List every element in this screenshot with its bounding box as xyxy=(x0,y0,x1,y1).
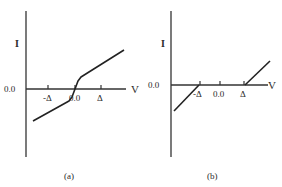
tick-label-neg-delta-a: -Δ xyxy=(43,93,52,103)
iv-curve-b-positive xyxy=(245,61,270,85)
tick-label-delta-a: Δ xyxy=(97,93,103,103)
y-label-a: I xyxy=(15,38,19,49)
tick-label-zero-b: 0.0 xyxy=(213,89,225,99)
caption-b: (b) xyxy=(207,171,218,181)
tick-label-neg-delta-b: -Δ xyxy=(193,89,202,99)
panel-a: I V 0.0 -Δ 0.0 Δ (a) xyxy=(4,11,139,181)
tick-label-zero-a: 0.0 xyxy=(69,93,81,103)
panel-b: I V 0.0 -Δ 0.0 Δ (b) xyxy=(148,11,276,181)
tick-label-delta-b: Δ xyxy=(240,89,246,99)
x-label-a: V xyxy=(131,83,139,95)
iv-curve-a xyxy=(33,50,124,121)
origin-label-a: 0.0 xyxy=(4,84,16,94)
origin-label-b: 0.0 xyxy=(148,80,160,90)
x-label-b: V xyxy=(268,79,276,91)
caption-a: (a) xyxy=(64,171,74,181)
y-label-b: I xyxy=(161,38,165,49)
figure-canvas: I V 0.0 -Δ 0.0 Δ (a) I V 0.0 -Δ 0.0 Δ (b… xyxy=(0,0,282,187)
